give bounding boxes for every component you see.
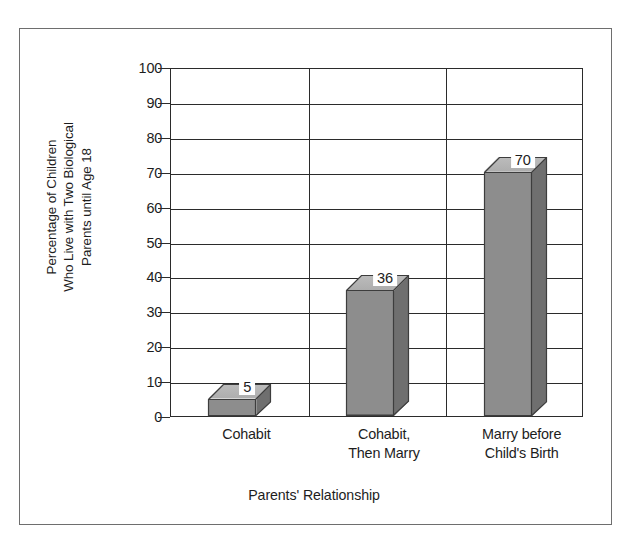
y-axis-tick-mark bbox=[158, 277, 170, 278]
x-axis-tick-label: Cohabit,Then Marry bbox=[348, 425, 420, 462]
x-axis-tick-label: Marry beforeChild's Birth bbox=[482, 425, 561, 462]
y-axis-title-line-3: Parents until Age 18 bbox=[78, 148, 95, 266]
y-axis-tick-mark bbox=[158, 382, 170, 383]
bar-value-label: 5 bbox=[239, 379, 255, 395]
y-axis-tick-label: 20 bbox=[122, 339, 162, 355]
y-axis-tick-mark bbox=[158, 243, 170, 244]
y-axis-tick-label: 90 bbox=[122, 95, 162, 111]
bar-value-label: 70 bbox=[511, 152, 535, 168]
y-axis-tick-mark bbox=[158, 103, 170, 104]
gridline bbox=[171, 139, 582, 140]
x-axis-tick-label-line: Then Marry bbox=[348, 444, 420, 463]
y-axis-tick-label: 30 bbox=[122, 304, 162, 320]
bar-outline bbox=[346, 275, 409, 416]
y-axis-tick-marks bbox=[158, 68, 170, 417]
x-axis-title: Parents' Relationship bbox=[0, 487, 628, 503]
category-divider bbox=[309, 69, 310, 416]
x-axis-tick-label-line: Child's Birth bbox=[482, 444, 561, 463]
plot-area: 53670 bbox=[170, 68, 583, 417]
x-axis-tick-label-line: Cohabit, bbox=[348, 425, 420, 444]
gridline bbox=[171, 104, 582, 105]
bar-outline bbox=[484, 157, 547, 416]
y-axis-tick-mark bbox=[158, 138, 170, 139]
y-axis-tick-mark bbox=[158, 173, 170, 174]
y-axis-tick-label: 40 bbox=[122, 269, 162, 285]
y-axis-title-line-1: Percentage of Children bbox=[43, 140, 60, 275]
y-axis-tick-label: 10 bbox=[122, 374, 162, 390]
x-axis-tick-label: Cohabit bbox=[222, 425, 270, 444]
category-divider bbox=[446, 69, 447, 416]
y-axis-tick-label: 60 bbox=[122, 200, 162, 216]
y-axis-tick-mark bbox=[158, 417, 170, 418]
y-axis-title-line-2: Who Live with Two Biological bbox=[60, 122, 77, 292]
x-axis-tick-label-line: Marry before bbox=[482, 425, 561, 444]
bar-chart-figure: Percentage of Children Who Live with Two… bbox=[0, 0, 628, 547]
bar-value-label: 36 bbox=[373, 270, 397, 286]
y-axis-tick-label: 100 bbox=[122, 60, 162, 76]
y-axis-title: Percentage of Children Who Live with Two… bbox=[37, 52, 101, 362]
x-axis-tick-label-line: Cohabit bbox=[222, 425, 270, 444]
bar-3[interactable] bbox=[484, 157, 547, 416]
y-axis-tick-mark bbox=[158, 68, 170, 69]
y-axis-tick-label: 0 bbox=[122, 409, 162, 425]
y-axis-tick-label: 50 bbox=[122, 235, 162, 251]
y-axis-tick-mark bbox=[158, 208, 170, 209]
y-axis-tick-mark bbox=[158, 347, 170, 348]
y-axis-tick-label: 80 bbox=[122, 130, 162, 146]
y-axis-tick-mark bbox=[158, 312, 170, 313]
y-axis-tick-labels: 0102030405060708090100 bbox=[118, 68, 162, 417]
y-axis-tick-label: 70 bbox=[122, 165, 162, 181]
bar-2[interactable] bbox=[346, 275, 409, 416]
